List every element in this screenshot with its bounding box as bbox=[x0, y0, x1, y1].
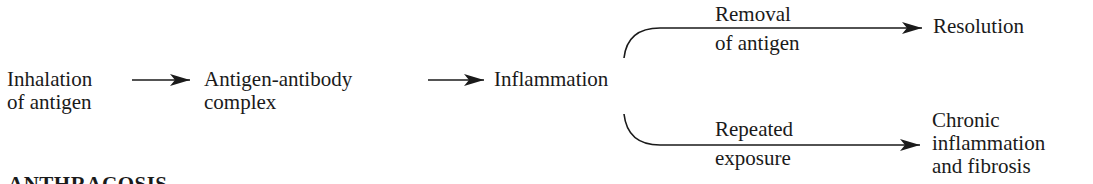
node-chronic-line2: inflammation bbox=[932, 131, 1045, 155]
edge-label-repeated-line1: Repeated bbox=[715, 117, 793, 141]
edge-label-removal-line1: Removal bbox=[715, 2, 791, 26]
node-inflammation: Inflammation bbox=[494, 67, 608, 91]
node-inhalation-line2: of antigen bbox=[7, 90, 92, 114]
edge-label-removal-line2: of antigen bbox=[715, 31, 800, 55]
node-complex-line2: complex bbox=[204, 90, 276, 114]
edge-label-repeated-line2: exposure bbox=[715, 146, 791, 170]
section-heading: ANTHRACOSIS bbox=[8, 172, 168, 184]
node-chronic-line1: Chronic bbox=[932, 108, 1000, 132]
node-complex-line1: Antigen-antibody bbox=[204, 67, 352, 91]
node-chronic-line3: and fibrosis bbox=[932, 154, 1031, 178]
arrows-layer bbox=[0, 0, 1093, 184]
node-resolution: Resolution bbox=[933, 14, 1024, 38]
node-inhalation-line1: Inhalation bbox=[7, 67, 92, 91]
